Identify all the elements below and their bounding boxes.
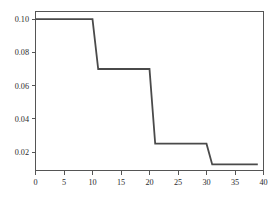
step-line-chart: 0.10 0.08 0.06 0.04 0.02 0 5 10 15 20 25 <box>0 0 271 199</box>
y-tick-label-1: 0.08 <box>15 48 29 57</box>
x-tick-label-4: 20 <box>145 178 153 187</box>
y-tick-label-3: 0.04 <box>15 115 29 124</box>
x-tick-label-0: 0 <box>33 178 37 187</box>
x-tick-label-8: 40 <box>259 178 267 187</box>
y-tick-label-4: 0.02 <box>15 148 29 157</box>
chart-container: 0.10 0.08 0.06 0.04 0.02 0 5 10 15 20 25 <box>0 0 271 199</box>
x-tick-label-5: 25 <box>174 178 182 187</box>
x-tick-label-1: 5 <box>62 178 66 187</box>
x-tick-label-2: 10 <box>88 178 96 187</box>
chart-background <box>0 0 271 199</box>
x-tick-label-7: 35 <box>231 178 239 187</box>
x-tick-label-6: 30 <box>202 178 210 187</box>
x-tick-label-3: 15 <box>117 178 125 187</box>
y-tick-label-2: 0.06 <box>15 82 29 91</box>
y-tick-label-0: 0.10 <box>15 15 29 24</box>
